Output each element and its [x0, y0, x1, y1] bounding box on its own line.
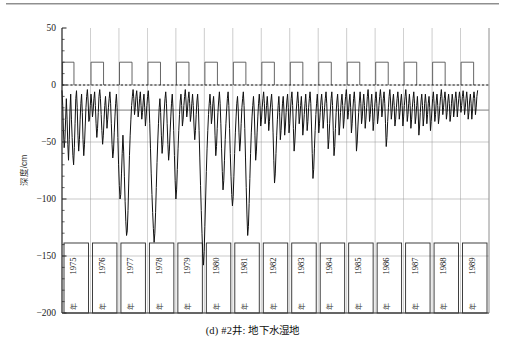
year-unit-label: 年: [325, 303, 334, 310]
year-unit-label: 年: [183, 303, 192, 310]
year-unit-label: 年: [240, 303, 249, 310]
year-label: 1988: [438, 258, 448, 275]
year-label: 1984: [324, 257, 334, 275]
year-unit-label: 年: [382, 303, 391, 310]
y-tick-label: 50: [47, 23, 57, 33]
year-label: 1979: [182, 258, 192, 275]
year-unit-label: 年: [69, 303, 78, 310]
figure-root: 1975年1976年1977年1978年1979年1980年1981年1982年…: [0, 0, 505, 351]
year-label: 1986: [381, 258, 391, 275]
year-unit-label: 年: [411, 303, 420, 310]
y-axis-title: 深度/cm: [19, 155, 29, 187]
year-unit-label: 年: [98, 303, 107, 310]
year-unit-label: 年: [297, 303, 306, 310]
year-label: 1983: [296, 258, 306, 275]
year-box-group: 1975年1976年1977年1978年1979年1980年1981年1982年…: [64, 243, 487, 313]
year-label: 1980: [211, 258, 221, 275]
year-unit-label: 年: [269, 303, 278, 310]
year-unit-label: 年: [155, 303, 164, 310]
year-label: 1978: [154, 258, 164, 275]
year-label: 1982: [268, 258, 278, 275]
y-tick-label: −150: [36, 251, 56, 261]
year-label: 1981: [239, 258, 249, 275]
year-unit-label: 年: [126, 303, 135, 310]
year-label: 1977: [125, 258, 135, 275]
y-axis-title-text: 深度/cm: [19, 155, 29, 187]
year-unit-label: 年: [354, 303, 363, 310]
year-label: 1975: [68, 258, 78, 275]
y-tick-label: 0: [51, 80, 56, 90]
water-table-chart: 1975年1976年1977年1978年1979年1980年1981年1982年…: [0, 0, 505, 351]
year-unit-label: 年: [212, 303, 221, 310]
year-label: 1989: [467, 258, 477, 275]
year-unit-label: 年: [468, 303, 477, 310]
y-tick-labels: 500−50−100−150−200: [36, 23, 56, 318]
y-tick-label: −200: [36, 308, 56, 318]
seasonal-square-wave: [63, 62, 474, 85]
year-unit-label: 年: [439, 303, 448, 310]
y-tick-label: −100: [36, 194, 56, 204]
year-label: 1976: [97, 258, 107, 275]
y-tick-label: −50: [41, 137, 56, 147]
year-label: 1987: [410, 258, 420, 275]
year-label: 1985: [353, 258, 363, 275]
water-table-curve: [62, 90, 478, 266]
plot-area: 1975年1976年1977年1978年1979年1980年1981年1982年…: [0, 0, 505, 351]
figure-caption: (d) #2井: 地下水湿地: [0, 322, 505, 337]
